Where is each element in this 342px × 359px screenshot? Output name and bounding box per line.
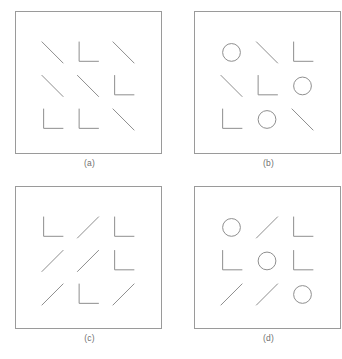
slash-line xyxy=(42,284,64,306)
panel-d-box xyxy=(194,186,341,329)
circle-shape xyxy=(294,77,312,95)
backslash-line xyxy=(292,109,314,131)
circle-shape xyxy=(258,111,276,129)
l-shape xyxy=(258,75,278,95)
panel-b-shapes xyxy=(195,12,340,153)
figure-container: (a)(b)(c)(d) xyxy=(0,0,342,359)
slash-line xyxy=(221,284,243,306)
slash-line xyxy=(42,250,64,272)
circle-shape xyxy=(223,219,241,237)
l-shape xyxy=(44,217,64,237)
circle-shape xyxy=(294,286,312,304)
l-shape xyxy=(115,75,135,95)
backslash-line xyxy=(113,109,135,131)
panel-d-label: (d) xyxy=(194,333,342,343)
panel-b-label: (b) xyxy=(194,158,342,168)
panel-grid: (a)(b)(c)(d) xyxy=(0,0,342,359)
l-shape xyxy=(223,250,243,270)
l-shape xyxy=(294,217,314,237)
panel-a-box xyxy=(15,11,162,154)
slash-line xyxy=(77,250,99,272)
backslash-line xyxy=(221,75,243,97)
slash-line xyxy=(256,217,278,239)
l-shape xyxy=(294,42,314,62)
circle-shape xyxy=(223,44,241,62)
slash-line xyxy=(113,284,135,306)
backslash-line xyxy=(42,75,64,97)
circle-shape xyxy=(258,252,276,270)
backslash-line xyxy=(77,75,99,97)
backslash-line xyxy=(42,42,64,64)
panel-a: (a) xyxy=(15,11,164,186)
l-shape xyxy=(79,284,99,304)
slash-line xyxy=(77,217,99,239)
panel-b-box xyxy=(194,11,341,154)
l-shape xyxy=(223,109,243,129)
slash-line xyxy=(256,284,278,306)
backslash-line xyxy=(256,42,278,64)
panel-d-shapes xyxy=(195,187,340,328)
l-shape xyxy=(79,109,99,129)
panel-d: (d) xyxy=(194,186,342,359)
l-shape xyxy=(44,109,64,129)
panel-b: (b) xyxy=(194,11,342,186)
panel-c-box xyxy=(15,186,162,329)
panel-c-label: (c) xyxy=(15,333,164,343)
panel-a-label: (a) xyxy=(15,158,164,168)
backslash-line xyxy=(113,42,135,64)
l-shape xyxy=(115,250,135,270)
panel-a-shapes xyxy=(16,12,161,153)
panel-c-shapes xyxy=(16,187,161,328)
l-shape xyxy=(294,250,314,270)
panel-c: (c) xyxy=(15,186,164,359)
l-shape xyxy=(79,42,99,62)
l-shape xyxy=(115,217,135,237)
